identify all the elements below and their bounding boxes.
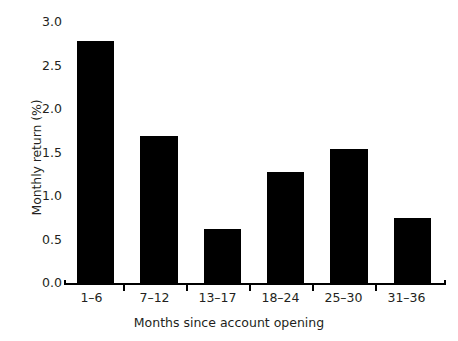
x-axis-right-cap — [444, 280, 446, 285]
bar — [267, 172, 304, 285]
x-tick-mark — [186, 285, 188, 291]
x-tick-mark — [312, 285, 314, 291]
x-tick-mark — [375, 285, 377, 291]
x-tick-label: 31–36 — [372, 292, 442, 305]
x-axis-line — [64, 283, 446, 285]
bar-chart-figure: Monthly return (%) 0.0 0.5 1.0 1.5 2.0 2… — [0, 0, 458, 341]
bar — [77, 41, 114, 284]
x-tick-label: 25–30 — [309, 292, 379, 305]
x-tick-label: 18–24 — [246, 292, 316, 305]
x-tick-mark — [249, 285, 251, 291]
bar — [330, 149, 367, 284]
bar — [394, 218, 431, 284]
y-axis-tick-labels: 0.0 0.5 1.0 1.5 2.0 2.5 3.0 — [16, 0, 62, 341]
y-tick-label: 0.0 — [22, 277, 62, 290]
x-tick-label: 1–6 — [57, 292, 127, 305]
x-tick-label: 7–12 — [120, 292, 190, 305]
x-tick-label: 13–17 — [183, 292, 253, 305]
bar — [204, 229, 241, 284]
y-tick-label: 1.5 — [22, 146, 62, 159]
x-axis-left-cap — [64, 280, 66, 285]
plot-area — [64, 14, 444, 284]
y-tick-label: 1.0 — [22, 190, 62, 203]
y-tick-label: 3.0 — [22, 16, 62, 29]
x-axis-title: Months since account opening — [0, 315, 458, 330]
x-tick-mark — [123, 285, 125, 291]
y-tick-label: 2.5 — [22, 59, 62, 72]
y-tick-label: 0.5 — [22, 233, 62, 246]
y-tick-label: 2.0 — [22, 103, 62, 116]
bar — [140, 136, 177, 285]
